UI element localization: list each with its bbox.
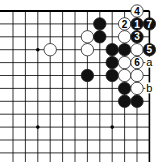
- black-stone: 7: [143, 18, 155, 30]
- black-stone-circle: [94, 18, 106, 30]
- white-stone: 2: [118, 18, 130, 30]
- white-stone: [131, 69, 143, 81]
- go-board-diagram: 2413675 ab: [0, 0, 156, 162]
- black-stone: 3: [131, 31, 143, 43]
- white-stone-circle: [131, 69, 143, 81]
- white-stone-circle: [131, 82, 143, 94]
- move-number: 4: [134, 6, 140, 17]
- white-stone-circle: [118, 69, 130, 81]
- point-label-b: b: [145, 82, 153, 94]
- white-stone: [131, 82, 143, 94]
- point-label-a: a: [145, 56, 153, 68]
- star-point: [36, 48, 40, 52]
- white-stone-circle: [118, 56, 130, 68]
- black-stone: [94, 31, 106, 43]
- black-stone-circle: [81, 69, 93, 81]
- white-stone-circle: [81, 31, 93, 43]
- black-stone: [94, 18, 106, 30]
- white-stone: [81, 44, 93, 56]
- move-number: 3: [134, 31, 140, 42]
- white-stone: [118, 31, 130, 43]
- white-stone: [81, 31, 93, 43]
- black-stone: [106, 56, 118, 68]
- white-stone-circle: [44, 44, 56, 56]
- white-stone: [131, 44, 143, 56]
- black-stone: [118, 95, 130, 107]
- white-stone: 6: [131, 56, 143, 68]
- black-stone-circle: [118, 95, 130, 107]
- black-stone-circle: [106, 56, 118, 68]
- white-stone: 4: [131, 5, 143, 17]
- move-number: 1: [134, 19, 140, 30]
- white-stone-circle: [81, 44, 93, 56]
- black-stone: 5: [143, 44, 155, 56]
- white-stone-circle: [118, 31, 130, 43]
- white-stone-circle: [131, 44, 143, 56]
- star-point: [110, 125, 114, 129]
- move-number: 2: [122, 19, 128, 30]
- black-stone: [106, 69, 118, 81]
- star-point: [36, 125, 40, 129]
- move-number: 5: [147, 44, 153, 55]
- black-stone-circle: [106, 69, 118, 81]
- point-label-text: b: [146, 82, 152, 94]
- black-stone: [131, 95, 143, 107]
- black-stone: 1: [131, 18, 143, 30]
- black-stone-circle: [118, 44, 130, 56]
- black-stone: [118, 82, 130, 94]
- white-stone: [44, 44, 56, 56]
- black-stone-circle: [94, 31, 106, 43]
- move-number: 6: [134, 57, 140, 68]
- black-stone: [81, 69, 93, 81]
- white-stone: [118, 69, 130, 81]
- point-label-text: a: [146, 56, 153, 68]
- black-stone-circle: [118, 82, 130, 94]
- white-stone: [118, 56, 130, 68]
- move-number: 7: [147, 19, 153, 30]
- black-stone: [118, 44, 130, 56]
- black-stone-circle: [131, 95, 143, 107]
- black-stone: [106, 44, 118, 56]
- black-stone-circle: [106, 44, 118, 56]
